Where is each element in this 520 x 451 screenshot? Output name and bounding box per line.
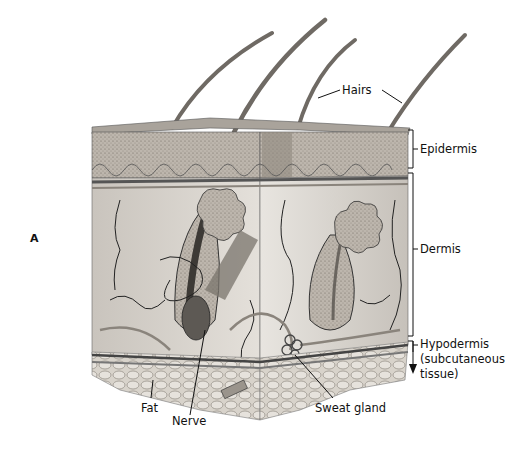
hypodermis-arrow-icon <box>409 364 417 374</box>
label-dermis: Dermis <box>420 243 461 256</box>
label-hypodermis-sub: (subcutaneous <box>420 353 505 366</box>
label-sweat-gland: Sweat gland <box>315 402 386 415</box>
label-fat: Fat <box>141 402 158 415</box>
panel-letter: A <box>30 232 39 245</box>
label-nerve: Nerve <box>172 415 206 428</box>
label-hypodermis-tissue: tissue) <box>420 368 459 381</box>
label-hairs: Hairs <box>342 84 372 97</box>
label-epidermis: Epidermis <box>420 143 477 156</box>
skin-diagram: A Hairs Epidermis Dermis Hypodermis (sub… <box>0 0 520 451</box>
label-hypodermis: Hypodermis <box>420 338 489 351</box>
skin-illustration <box>0 0 520 451</box>
